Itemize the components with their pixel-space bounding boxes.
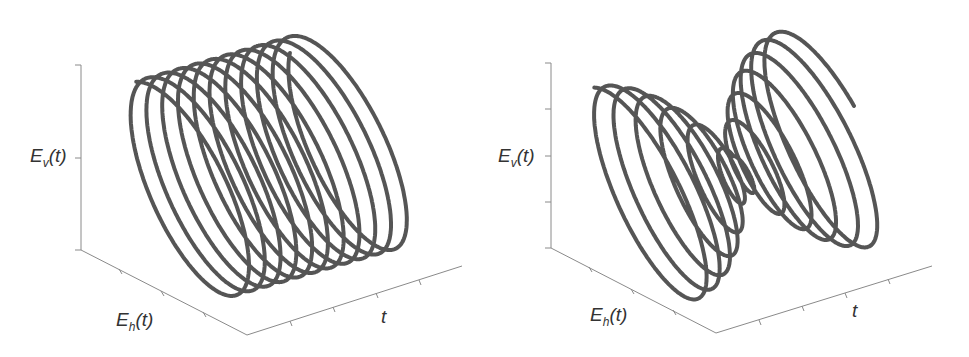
right-ev-axis-label: Ev(t) [498, 145, 535, 170]
left-helix-curve [131, 36, 407, 296]
left-ev-axis-label: Ev(t) [30, 145, 67, 170]
left-eh-axis-label: Eh(t) [116, 309, 153, 334]
right-helix-curve [594, 32, 877, 300]
left-t-axis-label: t [381, 306, 386, 328]
right-t-axis-label: t [852, 300, 857, 322]
right-eh-axis-label: Eh(t) [590, 304, 627, 329]
figure-canvas [0, 0, 969, 357]
